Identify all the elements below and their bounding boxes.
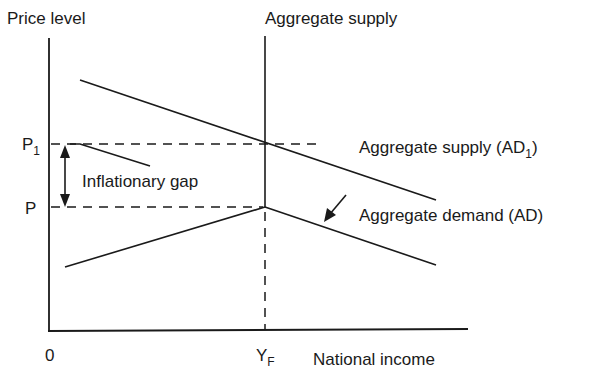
- y-tick-p: P: [25, 199, 36, 218]
- inflationary-gap-leader: [70, 144, 150, 166]
- inflationary-gap-label: Inflationary gap: [82, 172, 198, 191]
- ad-label: Aggregate demand (AD): [359, 206, 543, 225]
- aggregate-supply-label: Aggregate supply: [265, 9, 398, 28]
- x-tick-origin: 0: [45, 346, 54, 365]
- x-tick-yf: YF: [256, 346, 275, 369]
- y-tick-p1: P1: [22, 135, 40, 158]
- arrowhead-down-icon: [60, 194, 70, 207]
- shift-arrow: [330, 195, 346, 214]
- x-axis: [48, 329, 468, 331]
- y-axis-label: Price level: [7, 9, 85, 28]
- chart: Price level National income 0 YF P1 P Ag…: [0, 0, 594, 375]
- rising-line: [65, 207, 265, 267]
- ad1-label: Aggregate supply (AD1): [359, 138, 538, 161]
- arrowhead-up-icon: [60, 145, 70, 158]
- x-axis-label: National income: [313, 350, 435, 369]
